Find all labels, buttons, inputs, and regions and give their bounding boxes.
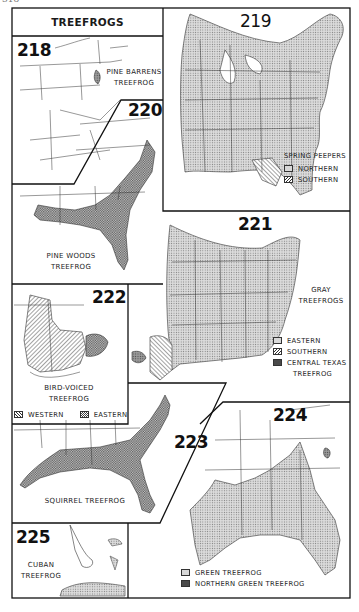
- legend-219: SPRING PEEPERS NORTHERN SOUTHERN: [284, 150, 346, 185]
- map-number-223: 223: [174, 432, 208, 452]
- dots-swatch-icon: [284, 165, 293, 172]
- map-number-219: 219: [240, 11, 271, 31]
- map-222: [14, 295, 108, 377]
- label-220: PINE WOODS TREEFROG: [36, 251, 106, 273]
- hatch-swatch-icon: [284, 176, 293, 183]
- map-number-221: 221: [238, 214, 272, 234]
- legend-item: SOUTHERN: [273, 346, 346, 357]
- legend-224: GREEN TREEFROG NORTHERN GREEN TREEFROG: [181, 567, 305, 589]
- label-221: GRAY TREEFROGS: [296, 285, 346, 307]
- map-number-222: 222: [92, 287, 126, 307]
- map-number-225: 225: [16, 527, 50, 547]
- hatch-swatch-icon: [273, 348, 282, 355]
- legend-221: EASTERN SOUTHERN CENTRAL TEXAS TREEFROG: [273, 335, 346, 379]
- legend-item: EASTERN: [273, 335, 346, 346]
- label-222: BIRD-VOICED TREEFROG: [34, 383, 104, 405]
- legend-item: WESTERN: [14, 409, 64, 420]
- map-225: [60, 525, 125, 596]
- map-224: [190, 405, 340, 575]
- map-220: [20, 118, 155, 270]
- map-number-220: 220: [128, 100, 162, 120]
- legend-item: SOUTHERN: [284, 174, 346, 185]
- legend-item: NORTHERN: [284, 163, 346, 174]
- dots-swatch-icon: [181, 569, 190, 576]
- dark-swatch-icon: [273, 359, 282, 366]
- dark-swatch-icon: [181, 580, 190, 587]
- label-223: SQUIRREL TREEFROG: [40, 496, 130, 507]
- page-title: TREEFROGS: [12, 8, 163, 36]
- legend-item: CENTRAL TEXAS: [273, 357, 346, 368]
- label-218: PINE BARRENS TREEFROG: [104, 67, 164, 89]
- legend-item: GREEN TREEFROG: [181, 567, 305, 578]
- map-number-218: 218: [17, 40, 51, 60]
- legend-222: WESTERN EASTERN: [14, 409, 127, 420]
- hatch-swatch-icon: [14, 411, 23, 418]
- legend-item: NORTHERN GREEN TREEFROG: [181, 578, 305, 589]
- legend-item: EASTERN: [80, 409, 128, 420]
- map-number-224: 224: [273, 405, 307, 425]
- dots-swatch-icon: [273, 337, 282, 344]
- label-225: CUBAN TREEFROG: [18, 560, 64, 582]
- check-swatch-icon: [80, 411, 89, 418]
